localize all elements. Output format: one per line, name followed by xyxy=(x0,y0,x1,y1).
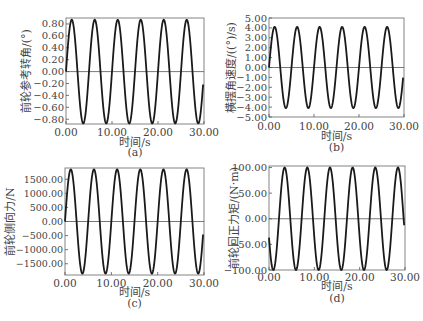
y-axis-label: 前轮侧向力/N xyxy=(3,187,17,256)
y-tick-label: −1500.00 xyxy=(16,258,63,269)
x-tick-label: 0.00 xyxy=(54,126,77,138)
y-tick-label: 50.00 xyxy=(238,188,267,199)
chart-panel-a: 0.800.600.400.200.00−0.20−0.40−0.60−0.80… xyxy=(19,18,219,159)
x-tick-label: 0.00 xyxy=(257,120,280,132)
chart-panel-d: 100.0050.000.00−50.00−100.000.0010.0020.… xyxy=(224,162,420,305)
panel-caption: (a) xyxy=(127,146,142,159)
x-tick-label: 30.00 xyxy=(390,271,420,283)
x-tick-label: 30.00 xyxy=(189,277,219,289)
x-tick-label: 0.00 xyxy=(257,271,280,283)
y-axis-label: 前轮回正力矩/(N·m) xyxy=(227,167,241,269)
y-tick-label: 0.40 xyxy=(42,42,64,53)
chart-panel-b: 5.004.003.002.001.000.00−1.00−2.00−3.00−… xyxy=(224,13,419,155)
y-tick-label: 0.60 xyxy=(42,30,64,41)
y-tick-label: −0.40 xyxy=(33,90,64,101)
panel-caption: (b) xyxy=(329,141,345,154)
y-tick-label: −0.20 xyxy=(33,78,64,89)
x-tick-label: 0.00 xyxy=(53,277,76,289)
y-tick-label: 1000.00 xyxy=(24,188,63,199)
panel-caption: (c) xyxy=(127,297,142,310)
x-tick-label: 30.00 xyxy=(389,120,419,132)
y-tick-label: −0.60 xyxy=(33,102,64,113)
y-tick-label: −1000.00 xyxy=(16,244,63,255)
y-tick-label: 0.80 xyxy=(42,18,64,29)
y-tick-label: 0.20 xyxy=(42,54,64,65)
chart-panel-c: 1500.001000.00500.000.00−500.00−1000.00−… xyxy=(3,168,219,310)
y-tick-label: 0.00 xyxy=(42,216,63,227)
y-tick-label: −500.00 xyxy=(22,230,63,241)
y-tick-label: −0.80 xyxy=(33,114,64,125)
y-tick-label: 0.00 xyxy=(42,66,64,77)
y-tick-label: 500.00 xyxy=(30,202,63,213)
y-tick-label: 0.00 xyxy=(245,213,267,224)
figure-canvas: 0.800.600.400.200.00−0.20−0.40−0.60−0.80… xyxy=(0,0,423,321)
y-tick-label: 1500.00 xyxy=(24,174,63,185)
y-axis-label: 前轮参考转角/(°) xyxy=(19,29,33,113)
panel-caption: (d) xyxy=(329,292,345,305)
x-tick-label: 30.00 xyxy=(189,126,219,138)
y-axis-label: 横摆角速度/((°)/s) xyxy=(224,22,238,113)
